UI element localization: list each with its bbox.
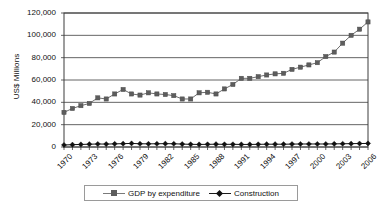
data-point-marker	[155, 92, 159, 96]
data-point-marker	[70, 106, 74, 110]
data-point-marker	[197, 142, 202, 147]
data-point-marker	[180, 97, 184, 101]
data-point-marker	[95, 141, 100, 146]
data-point-marker	[273, 142, 278, 147]
data-point-marker	[146, 141, 151, 146]
data-point-marker	[298, 141, 303, 146]
data-point-marker	[154, 141, 159, 146]
data-point-marker	[78, 142, 83, 147]
data-point-marker	[281, 71, 285, 75]
data-point-marker	[265, 73, 269, 77]
data-point-marker	[222, 142, 227, 147]
data-point-marker	[248, 76, 252, 80]
data-point-marker	[239, 76, 243, 80]
data-point-marker	[129, 92, 133, 96]
data-point-marker	[62, 110, 66, 114]
data-point-marker	[323, 141, 328, 146]
data-point-marker	[222, 87, 226, 91]
data-point-marker	[113, 92, 117, 96]
data-point-marker	[366, 20, 370, 24]
data-point-marker	[70, 142, 75, 147]
chart-legend: GDP by expenditure Construction	[84, 185, 298, 201]
data-point-marker	[146, 91, 150, 95]
data-point-marker	[104, 97, 108, 101]
legend-entry-gdp[interactable]: GDP by expenditure	[103, 189, 200, 198]
data-point-marker	[163, 141, 168, 146]
data-point-marker	[87, 101, 91, 105]
data-point-marker	[315, 141, 320, 146]
legend-square-marker-icon	[103, 189, 125, 197]
data-point-marker	[121, 87, 125, 91]
data-point-marker	[239, 142, 244, 147]
legend-diamond-marker-icon	[209, 189, 231, 197]
data-point-marker	[188, 142, 193, 147]
data-point-marker	[341, 41, 345, 45]
data-point-marker	[205, 90, 209, 94]
data-point-marker	[256, 142, 261, 147]
data-point-marker	[289, 141, 294, 146]
data-point-marker	[96, 96, 100, 100]
data-point-marker	[180, 141, 185, 146]
data-point-marker	[349, 141, 354, 146]
data-point-marker	[332, 50, 336, 54]
legend-label-construction: Construction	[234, 189, 279, 198]
data-point-marker	[197, 91, 201, 95]
data-point-marker	[281, 142, 286, 147]
legend-label-gdp: GDP by expenditure	[128, 189, 200, 198]
data-point-marker	[298, 65, 302, 69]
data-point-marker	[290, 67, 294, 71]
data-point-marker	[256, 75, 260, 79]
data-point-marker	[230, 142, 235, 147]
data-point-marker	[324, 54, 328, 58]
data-point-marker	[264, 142, 269, 147]
data-point-marker	[213, 142, 218, 147]
data-point-marker	[104, 141, 109, 146]
data-point-marker	[79, 104, 83, 108]
data-point-marker	[273, 72, 277, 76]
data-point-marker	[365, 141, 370, 146]
data-point-marker	[315, 61, 319, 65]
data-point-marker	[171, 141, 176, 146]
chart-container: US$ Millions 020,00040,00060,00080,00010…	[0, 0, 383, 212]
data-point-marker	[332, 141, 337, 146]
data-point-marker	[357, 27, 361, 31]
data-point-marker	[138, 93, 142, 97]
data-point-marker	[307, 63, 311, 67]
data-point-marker	[189, 97, 193, 101]
data-point-marker	[129, 141, 134, 146]
data-point-marker	[87, 142, 92, 147]
data-point-marker	[163, 92, 167, 96]
data-point-marker	[112, 141, 117, 146]
data-point-marker	[121, 141, 126, 146]
data-point-marker	[349, 33, 353, 37]
data-point-marker	[306, 141, 311, 146]
data-point-marker	[214, 92, 218, 96]
data-point-marker	[357, 141, 362, 146]
data-point-marker	[247, 142, 252, 147]
data-point-marker	[137, 141, 142, 146]
data-point-marker	[231, 82, 235, 86]
legend-entry-construction[interactable]: Construction	[209, 189, 279, 198]
data-point-marker	[172, 94, 176, 98]
data-point-marker	[340, 141, 345, 146]
data-point-marker	[205, 142, 210, 147]
series-gdp	[62, 20, 370, 115]
